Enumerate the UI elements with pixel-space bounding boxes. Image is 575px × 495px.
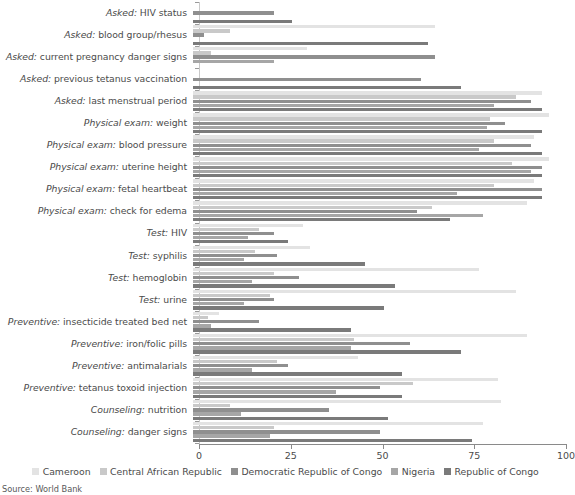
bar-republic-of-congo	[193, 130, 542, 133]
category-prefix: Physical exam:	[38, 205, 107, 216]
chart-legend: CameroonCentral African RepublicDemocrat…	[0, 466, 571, 477]
bar-nigeria	[193, 192, 457, 195]
bar-republic-of-congo	[193, 196, 542, 199]
bar-central-african-republic	[193, 294, 270, 297]
bar-group	[193, 134, 571, 156]
bar-democratic-republic-of-congo	[193, 144, 531, 147]
source-note: Source: World Bank	[2, 484, 82, 494]
bar-republic-of-congo	[193, 395, 402, 398]
category-suffix: check for edema	[107, 205, 187, 216]
category-suffix: blood pressure	[116, 139, 187, 150]
bar-group	[193, 24, 571, 46]
legend-swatch-icon	[444, 468, 451, 475]
category-suffix: blood group/rhesus	[95, 29, 187, 40]
x-axis-tick-label: 0	[196, 450, 202, 461]
category-suffix: iron/folic pills	[123, 338, 187, 349]
bar-central-african-republic	[193, 95, 516, 98]
bar-cameroon	[193, 47, 307, 50]
bar-group	[193, 46, 571, 68]
legend-item[interactable]: Central African Republic	[100, 466, 222, 477]
y-axis-tick	[195, 2, 199, 3]
bar-nigeria	[193, 126, 487, 129]
bar-central-african-republic	[193, 162, 512, 165]
legend-item[interactable]: Democratic Republic of Congo	[231, 466, 382, 477]
bar-democratic-republic-of-congo	[193, 232, 274, 235]
category-label: Counseling: nutrition	[0, 405, 193, 415]
bar-cameroon	[193, 135, 534, 138]
category-suffix: current pregnancy danger signs	[37, 51, 187, 62]
bar-republic-of-congo	[193, 284, 395, 287]
category-prefix: Physical exam:	[84, 117, 153, 128]
x-axis-tick-label: 50	[376, 450, 388, 461]
category-prefix: Preventive:	[24, 382, 76, 393]
bar-group-row: Preventive: insecticide treated bed net	[0, 311, 571, 333]
bar-central-african-republic	[193, 117, 490, 120]
category-suffix: tetanus toxoid injection	[76, 382, 187, 393]
bar-group	[193, 333, 571, 355]
bar-cameroon	[193, 201, 527, 204]
category-suffix: antimalarials	[124, 360, 187, 371]
bar-central-african-republic	[193, 404, 230, 407]
bar-group-row: Asked: last menstrual period	[0, 90, 571, 112]
category-label: Asked: last menstrual period	[0, 96, 193, 106]
bar-group	[193, 156, 571, 178]
legend-item[interactable]: Cameroon	[32, 466, 90, 477]
bar-democratic-republic-of-congo	[193, 11, 274, 14]
bar-republic-of-congo	[193, 328, 351, 331]
bar-central-african-republic	[193, 272, 274, 275]
bar-republic-of-congo	[193, 20, 292, 23]
bar-central-african-republic	[193, 228, 259, 231]
bar-group-row: Counseling: danger signs	[0, 421, 571, 443]
bar-nigeria	[193, 258, 244, 261]
bar-democratic-republic-of-congo	[193, 342, 410, 345]
bar-cameroon	[193, 224, 303, 227]
bar-cameroon	[193, 378, 498, 381]
bar-republic-of-congo	[193, 42, 428, 45]
x-axis-tick	[566, 444, 567, 449]
bar-group	[193, 267, 571, 289]
bar-nigeria	[193, 346, 351, 349]
bar-group-row: Physical exam: fetal heartbeat	[0, 178, 571, 200]
bar-group-row: Asked: current pregnancy danger signs	[0, 46, 571, 68]
bar-group-row: Physical exam: check for edema	[0, 200, 571, 222]
bar-central-african-republic	[193, 316, 208, 319]
category-label: Physical exam: uterine height	[0, 162, 193, 172]
legend-item[interactable]: Republic of Congo	[444, 466, 539, 477]
y-axis-tick	[195, 223, 199, 224]
category-label: Test: hemoglobin	[0, 273, 193, 283]
bar-cameroon	[193, 179, 534, 182]
bar-democratic-republic-of-congo	[193, 78, 421, 81]
y-axis-tick	[195, 267, 199, 268]
category-suffix: uterine height	[119, 161, 187, 172]
category-label: Asked: blood group/rhesus	[0, 30, 193, 40]
legend-item[interactable]: Nigeria	[391, 466, 435, 477]
legend-swatch-icon	[32, 468, 39, 475]
x-axis-tick	[474, 444, 475, 449]
category-prefix: Preventive:	[8, 316, 60, 327]
y-axis-tick	[195, 46, 199, 47]
bar-democratic-republic-of-congo	[193, 254, 277, 257]
bar-group	[193, 2, 571, 24]
category-prefix: Asked:	[64, 29, 95, 40]
bar-group	[193, 112, 571, 134]
bar-group-row: Preventive: tetanus toxoid injection	[0, 377, 571, 399]
bar-group	[193, 289, 571, 311]
bar-group	[193, 377, 571, 399]
bar-nigeria	[193, 434, 270, 437]
bar-cameroon	[193, 157, 549, 160]
bar-democratic-republic-of-congo	[193, 210, 417, 213]
category-suffix: syphilis	[150, 250, 187, 261]
category-label: Asked: current pregnancy danger signs	[0, 52, 193, 62]
bar-central-african-republic	[193, 382, 413, 385]
x-axis-tick	[291, 444, 292, 449]
bar-democratic-republic-of-congo	[193, 276, 299, 279]
category-suffix: weight	[153, 117, 187, 128]
bar-group	[193, 178, 571, 200]
bar-cameroon	[193, 312, 219, 315]
bar-democratic-republic-of-congo	[193, 122, 505, 125]
bar-group	[193, 222, 571, 244]
bar-cameroon	[193, 25, 435, 28]
bar-rows: Asked: HIV statusAsked: blood group/rhes…	[0, 2, 571, 443]
x-axis-tick	[383, 444, 384, 449]
